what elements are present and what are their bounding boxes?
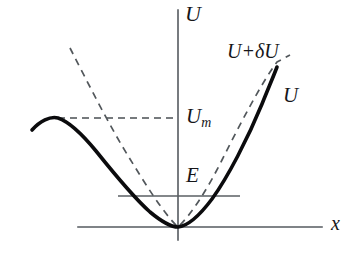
perturbed-potential-curve xyxy=(32,67,277,227)
u-axis-label: U xyxy=(185,3,201,25)
e-level-label: E xyxy=(186,165,199,186)
x-axis-label: x xyxy=(331,213,340,233)
potential-energy-figure: U x Um E U+δU U xyxy=(0,0,360,258)
um-level-label: Um xyxy=(186,106,211,130)
plot-canvas xyxy=(0,0,360,258)
harmonic-potential-curve xyxy=(70,48,290,227)
perturbed-curve-label: U+δU xyxy=(227,41,279,61)
um-level-label-subscript: m xyxy=(201,115,211,130)
um-level-label-base: U xyxy=(186,104,201,128)
harmonic-curve-label: U xyxy=(283,85,298,106)
